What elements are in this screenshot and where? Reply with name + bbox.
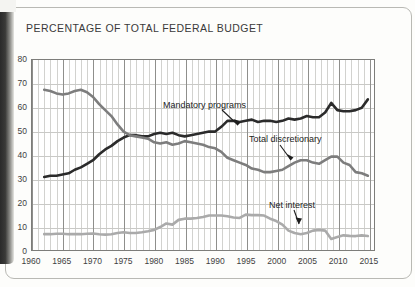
x-axis: 1960196519701975198019851990199520002005… [31,256,375,270]
x-tick-label: 1970 [83,256,102,266]
annotation-mandatory-programs: Mandatory programs [163,100,246,110]
line-chart [31,59,375,251]
y-tick-label: 80 [18,54,27,64]
x-tick-label: 1980 [144,256,163,266]
y-tick-label: 40 [18,150,27,160]
x-tick-label: 1995 [237,256,256,266]
y-axis: 01020304050607080 [0,59,27,251]
x-tick-label: 1965 [52,256,71,266]
series-line-net_interest [44,215,368,239]
y-tick-label: 10 [18,222,27,232]
series-lines [32,60,374,251]
y-tick-label: 20 [18,198,27,208]
y-tick-label: 50 [18,126,27,136]
y-tick-label: 30 [18,174,27,184]
x-tick-label: 1975 [114,256,133,266]
x-tick-label: 1990 [206,256,225,266]
y-tick-label: 0 [22,246,27,256]
x-tick-label: 2005 [298,256,317,266]
annotation-total-discretionary: Total discretionary [249,134,322,144]
scanned-page: PERCENTAGE OF TOTAL FEDERAL BUDGET 01020… [0,0,415,287]
annotation-net-interest: Net interest [269,200,315,210]
gutter-top-mask [0,0,16,12]
x-tick-label: 2010 [329,256,348,266]
x-tick-label: 1985 [175,256,194,266]
x-tick-label: 1960 [22,256,41,266]
y-tick-label: 70 [18,78,27,88]
plot-area [31,59,375,251]
page-title: PERCENTAGE OF TOTAL FEDERAL BUDGET [26,22,263,34]
y-tick-label: 60 [18,102,27,112]
x-tick-label: 2000 [267,256,286,266]
x-tick-label: 2015 [359,256,378,266]
